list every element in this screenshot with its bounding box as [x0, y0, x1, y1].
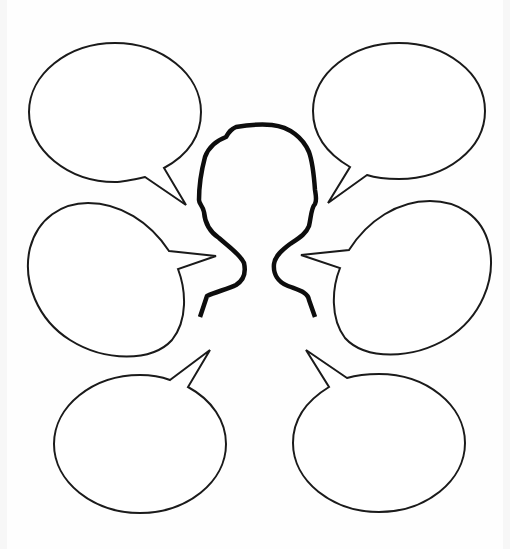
diagram-svg [0, 0, 510, 549]
person-outline-icon [199, 125, 316, 317]
speech-bubble-middle-right[interactable] [301, 201, 491, 355]
head-outline [199, 125, 316, 317]
diagram-canvas [0, 0, 510, 549]
speech-bubble-top-left[interactable] [29, 43, 201, 205]
speech-bubble-top-right[interactable] [313, 43, 485, 203]
speech-bubble-top-right-shape [313, 43, 485, 203]
speech-bubble-bottom-right-shape [293, 350, 465, 512]
speech-bubble-bottom-left[interactable] [54, 350, 226, 513]
speech-bubble-top-left-shape [29, 43, 201, 205]
speech-bubble-bottom-right[interactable] [293, 350, 465, 512]
speech-bubble-middle-left-shape [28, 203, 216, 357]
speech-bubble-middle-left[interactable] [28, 203, 216, 357]
speech-bubble-bottom-left-shape [54, 350, 226, 513]
speech-bubble-middle-right-shape [301, 201, 491, 355]
